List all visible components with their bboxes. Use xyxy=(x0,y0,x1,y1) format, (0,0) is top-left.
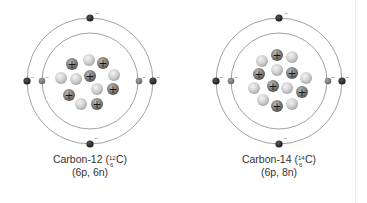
carbon-12-caption: Carbon-12 (126C) (6p, 6n) xyxy=(40,153,140,179)
isotope-title: Carbon-12 (126C) xyxy=(40,153,140,166)
proton: + xyxy=(253,68,265,80)
neutron xyxy=(300,72,312,84)
proton: + xyxy=(267,80,279,92)
electron-outer-bottom xyxy=(86,140,93,147)
particle-composition: (6p, 8n) xyxy=(229,166,329,179)
inner-orbit xyxy=(231,33,327,129)
proton: + xyxy=(84,70,96,82)
svg-text:+: + xyxy=(99,58,107,69)
proton: + xyxy=(107,83,119,95)
isotope-notation: 146 xyxy=(298,153,305,163)
svg-text:−: − xyxy=(45,74,49,80)
proton: + xyxy=(271,49,283,61)
svg-text:+: + xyxy=(65,90,73,101)
proton: + xyxy=(271,100,283,112)
svg-text:+: + xyxy=(68,59,76,70)
carbon-12-atom: + + + + + + − − − − − − xyxy=(23,10,160,148)
neutron xyxy=(55,72,67,84)
svg-text:−: − xyxy=(142,74,146,80)
neutron xyxy=(256,55,268,67)
nucleus: + + + + + + xyxy=(248,49,312,112)
svg-text:−: − xyxy=(95,10,99,16)
proton: + xyxy=(66,58,78,70)
svg-text:−: − xyxy=(234,74,238,80)
svg-text:−: − xyxy=(284,10,288,16)
svg-text:+: + xyxy=(109,84,117,95)
neutron xyxy=(271,64,283,76)
carbon-14-caption: Carbon-14 (146C) (6p, 8n) xyxy=(229,153,329,179)
electron-outer-top xyxy=(275,14,282,21)
isotope-notation: 126 xyxy=(109,153,116,163)
proton: + xyxy=(296,86,308,98)
electron-outer-bottom xyxy=(275,140,282,147)
svg-text:+: + xyxy=(269,81,277,92)
electrons: − − − − − − xyxy=(212,10,349,148)
svg-text:+: + xyxy=(255,69,263,80)
svg-text:+: + xyxy=(273,50,281,61)
proton: + xyxy=(91,98,103,110)
svg-text:−: − xyxy=(30,74,34,80)
svg-text:−: − xyxy=(219,74,223,80)
carbon-14-atom: + + + + + + − − − − − − xyxy=(212,10,349,148)
particle-composition: (6p, 6n) xyxy=(40,166,140,179)
neutron xyxy=(108,69,120,81)
svg-text:−: − xyxy=(283,135,287,141)
svg-text:−: − xyxy=(345,74,349,80)
divider xyxy=(355,0,356,203)
neutron xyxy=(91,83,103,95)
neutron xyxy=(248,82,260,94)
neutron xyxy=(75,98,87,110)
svg-text:−: − xyxy=(331,74,335,80)
svg-text:+: + xyxy=(93,99,101,110)
proton: + xyxy=(97,57,109,69)
neutron xyxy=(257,94,269,106)
neutron xyxy=(83,54,95,66)
electron-outer-top xyxy=(86,14,93,21)
neutron xyxy=(281,82,293,94)
neutron xyxy=(286,51,298,63)
isotope-title: Carbon-14 (146C) xyxy=(229,153,329,166)
svg-text:−: − xyxy=(94,135,98,141)
svg-text:+: + xyxy=(273,101,281,112)
svg-text:−: − xyxy=(156,74,160,80)
svg-text:+: + xyxy=(86,71,94,82)
proton: + xyxy=(63,89,75,101)
nucleus: + + + + + + xyxy=(55,54,120,110)
neutron xyxy=(70,73,82,85)
svg-text:+: + xyxy=(298,87,306,98)
proton: + xyxy=(286,67,298,79)
svg-text:+: + xyxy=(288,68,296,79)
neutron xyxy=(286,98,298,110)
outer-orbit xyxy=(216,18,342,144)
